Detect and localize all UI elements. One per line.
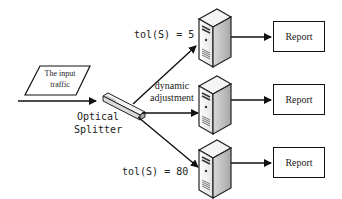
input-traffic-line2: traffic: [38, 79, 82, 90]
server-icon-bottom: [199, 140, 231, 198]
report-box-bottom: Report: [273, 147, 325, 178]
report-label-top: Report: [285, 31, 312, 42]
dynamic-line2: adjustment: [150, 92, 194, 104]
tol-label-top: tol(S) = 5: [134, 29, 194, 40]
server-icon-middle: [199, 76, 231, 134]
dynamic-line1: dynamic: [150, 80, 194, 92]
input-traffic-line1: The input: [38, 68, 82, 79]
dynamic-adjustment-label: dynamic adjustment: [150, 80, 194, 104]
report-label-middle: Report: [285, 94, 312, 105]
input-traffic-label: The input traffic: [38, 68, 82, 90]
splitter-line1: Optical: [74, 110, 122, 123]
splitter-line2: Splitter: [74, 123, 122, 136]
report-box-middle: Report: [273, 84, 325, 115]
tol-label-bottom: tol(S) = 80: [122, 166, 188, 177]
report-label-bottom: Report: [285, 157, 312, 168]
arrow-to-bottom-server: [138, 117, 198, 167]
server-icon-top: [199, 9, 231, 67]
optical-splitter-label: Optical Splitter: [74, 110, 122, 136]
report-box-top: Report: [273, 21, 325, 52]
